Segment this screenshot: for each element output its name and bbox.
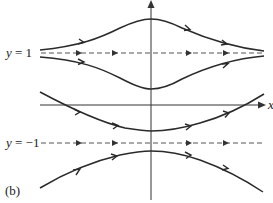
solution-curve-between-upper [40,56,264,89]
label-y-equals-minus-1: y = −1 [4,135,39,150]
x-axis-arrow-icon [258,102,266,109]
equilibrium-y1 [41,50,264,56]
x-axis-label: x [267,97,273,112]
x-axis [40,102,266,109]
solution-curve-between-lower [40,92,264,131]
label-y-equals-1: y = 1 [4,45,32,60]
y-axis-arrow-icon [148,0,155,8]
solution-curve-above-y1 [40,19,264,51]
direction-field-figure: x y = 1 y = −1 (b) [0,0,273,203]
equilibrium-y-minus-1 [41,140,264,146]
y-axis [148,0,155,200]
panel-label: (b) [5,183,20,198]
